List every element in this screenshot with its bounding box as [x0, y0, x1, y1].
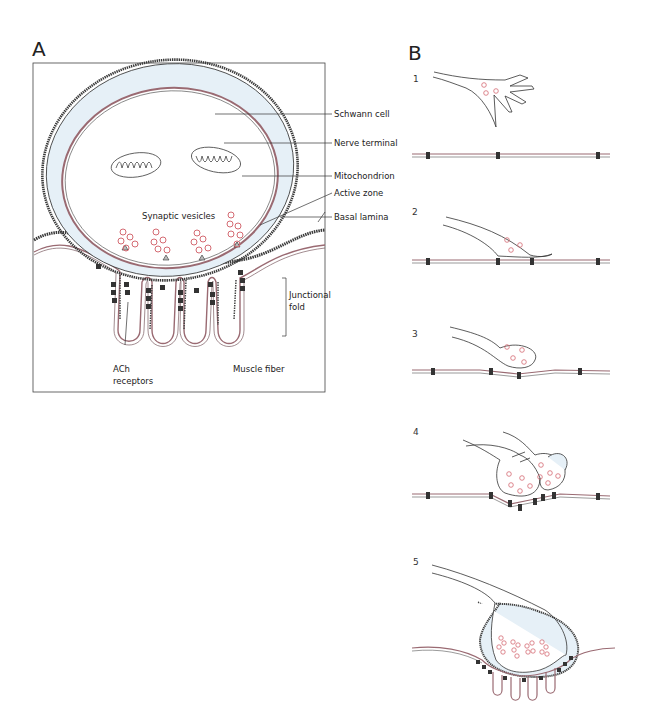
label-receptors: receptors [113, 376, 154, 386]
stage-1-muscle [412, 152, 610, 159]
label-junctional: Junctional [288, 290, 331, 300]
panel-a-letter: A [32, 37, 46, 61]
stage-3-number: 3 [412, 329, 418, 339]
nerve-terminal [28, 43, 312, 296]
label-fold: fold [289, 302, 305, 312]
stage-2-number: 2 [412, 207, 418, 217]
stage-2-growth-cone [443, 217, 552, 257]
diagram-canvas: A Neuromuscular junction [0, 0, 646, 719]
panel-b-letter: B [408, 41, 422, 65]
label-mitochondrion: Mitochondrion [334, 171, 395, 181]
label-synaptic-vesicles: Synaptic vesicles [142, 211, 216, 221]
stage-2-muscle [412, 258, 610, 265]
label-ach: ACh [113, 364, 130, 374]
stage-5-terminal [412, 565, 615, 700]
stage-4-number: 4 [413, 427, 419, 437]
label-basal-lamina: Basal lamina [334, 212, 389, 222]
stage-3-muscle [412, 368, 610, 379]
label-schwann-cell: Schwann cell [334, 109, 390, 119]
label-active-zone: Active zone [334, 188, 383, 198]
label-nerve-terminal: Nerve terminal [334, 138, 398, 148]
stage-1-growth-cone [433, 72, 534, 127]
stage-4-terminal [463, 432, 567, 496]
label-muscle-fiber: Muscle fiber [233, 364, 285, 374]
stage-5-number: 5 [413, 557, 419, 567]
stage-1-number: 1 [413, 74, 419, 84]
